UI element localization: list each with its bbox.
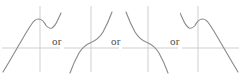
graph-panel-4-svg [180, 0, 241, 77]
curve-path-3 [126, 12, 168, 73]
curve-path-4 [180, 13, 238, 72]
graph-shapes-figure: or or or [0, 0, 241, 77]
separator-label-3: or [170, 36, 180, 47]
separator-label-1: or [52, 36, 62, 47]
graph-panel-4 [180, 0, 241, 77]
